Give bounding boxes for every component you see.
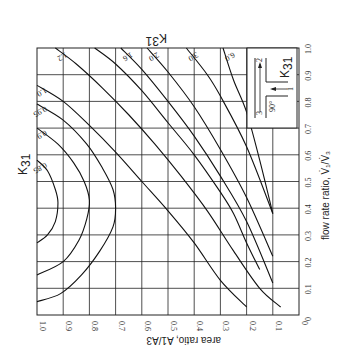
y-tick-label: 1.0	[304, 44, 313, 54]
x-tick-label: 0.4	[195, 321, 204, 331]
x-tick-label: 0.2	[248, 321, 257, 331]
chart: 0.850.90.951.01.21.62.03.06.0 1.00.90.80…	[0, 0, 343, 361]
y-tick-label: 0.7	[304, 124, 313, 134]
y-tick-label: 0.3	[304, 231, 313, 241]
area-ratio-ticks: 1.00.90.80.70.60.50.40.30.20.10	[38, 321, 309, 331]
curve-label: 1.2	[56, 50, 69, 63]
svg-text:K: K	[278, 70, 292, 78]
svg-text:3: 3	[255, 111, 264, 115]
curve-label: 0.85	[32, 160, 49, 175]
x-tick-label: 0.1	[274, 321, 283, 331]
svg-text:90°: 90°	[268, 101, 277, 112]
y-tick-label: 0.5	[304, 178, 313, 188]
x-tick-label: 0.6	[143, 321, 152, 331]
curve-label: 6.0	[223, 50, 236, 63]
x-tick-label: 0.9	[64, 321, 73, 331]
curves	[37, 48, 281, 307]
svg-text:31: 31	[19, 153, 33, 167]
x-tick-label: 0.5	[169, 321, 178, 331]
x-tick-label: 0.7	[117, 321, 126, 331]
y-tick-label: 0	[304, 317, 313, 321]
svg-text:31: 31	[145, 34, 159, 48]
x-axis-label: area ratio, A1/A3	[146, 335, 221, 346]
svg-text:1: 1	[286, 87, 295, 91]
curve-label: 1.6	[121, 50, 134, 63]
chart-title: K 31	[16, 153, 33, 175]
y-tick-label: 0.9	[304, 71, 313, 81]
y-tick-label: 0.4	[304, 204, 313, 214]
y-tick-label: 0.2	[304, 258, 313, 268]
x-tick-label: 0.3	[221, 321, 230, 331]
y-axis-label: flow rate ratio, V̇₁/V̇₃	[319, 151, 331, 240]
svg-text:K: K	[16, 167, 30, 175]
inset-diagram: 3 2 1 90° K 31	[247, 48, 297, 128]
curve-labels: 0.850.90.951.01.21.62.03.06.0	[32, 50, 237, 175]
svg-text:31: 31	[281, 56, 295, 70]
curve-k31-1.4	[95, 48, 260, 270]
y-tick-label: 0.6	[304, 151, 313, 161]
flow-ratio-ticks: 00.10.20.30.40.50.60.70.80.91.0	[304, 44, 313, 321]
svg-text:2: 2	[255, 58, 264, 62]
curve-label: 0.95	[32, 104, 49, 119]
y-tick-label: 0.8	[304, 97, 313, 107]
svg-text:K: K	[159, 31, 167, 45]
chart-title-rotated: K 31	[145, 31, 167, 48]
curve-label: 3.0	[187, 50, 200, 63]
curve-k31-0.95	[37, 104, 116, 302]
x-tick-label: 1.0	[38, 321, 47, 331]
x-tick-label: 0.8	[90, 321, 99, 331]
y-tick-label: 0.1	[304, 284, 313, 294]
